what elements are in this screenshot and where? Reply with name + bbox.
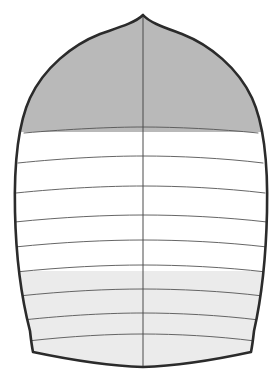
panel-3 (0, 162, 275, 194)
sail-panel-diagram: Spinnaker sail panel layout (0, 0, 275, 385)
panel-2 (0, 132, 275, 164)
